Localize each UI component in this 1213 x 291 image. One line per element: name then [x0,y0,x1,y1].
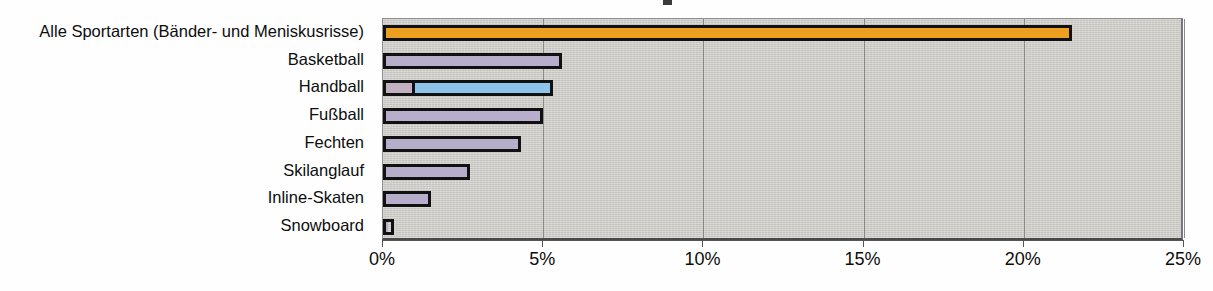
bar-segment [386,194,428,204]
bar [383,108,543,124]
bar-segment [386,56,559,66]
bar-row [383,102,1184,130]
category-label: Basketball [0,51,364,68]
x-tick [1023,240,1024,247]
x-tick [382,240,383,247]
bar-row [383,130,1184,158]
bar-segment [386,83,412,93]
bar [383,164,470,180]
bar [383,191,431,207]
bar-chart: Alle Sportarten (Bänder- und Meniskusris… [0,0,1213,291]
bar-segment [412,83,550,93]
bar-segment [386,167,467,177]
bar-segment [386,222,388,232]
bar-row [383,158,1184,186]
bar-row [383,186,1184,214]
x-tick [863,240,864,247]
category-label: Snowboard [0,217,364,234]
bar [383,25,1072,41]
x-tick [542,240,543,247]
bar-row [383,47,1184,75]
x-tick [1183,240,1184,247]
gridline [1184,19,1185,238]
bar-segment [386,111,540,121]
bar-row [383,213,1184,241]
category-label: Fechten [0,134,364,151]
category-label: Handball [0,78,364,95]
bar [383,80,553,96]
bar-row [383,19,1184,47]
category-label: Alle Sportarten (Bänder- und Meniskusris… [0,23,364,40]
bar [383,53,562,69]
category-label: Inline-Skaten [0,189,364,206]
x-tick-label: 10% [684,250,720,268]
bar-segment [386,28,1069,38]
bar-row [383,75,1184,103]
category-label: Skilanglauf [0,162,364,179]
category-axis-labels: Alle Sportarten (Bänder- und Meniskusris… [0,18,372,240]
x-tick-label: 25% [1165,250,1201,268]
bar [383,219,394,235]
x-tick-label: 20% [1005,250,1041,268]
bar [383,136,521,152]
x-tick-label: 0% [369,250,395,268]
x-tick-label: 15% [845,250,881,268]
bar-segment [386,139,518,149]
x-axis-line [382,240,1183,241]
x-tick [702,240,703,247]
x-tick-label: 5% [529,250,555,268]
title-remnant [663,0,672,5]
plot-area [382,18,1183,240]
category-label: Fußball [0,106,364,123]
